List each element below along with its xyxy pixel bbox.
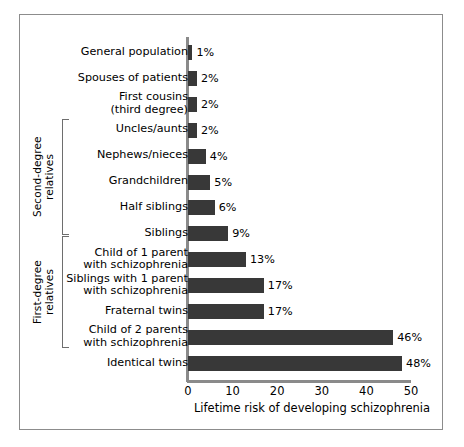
- bar-value-label: 9%: [232, 226, 250, 241]
- x-tick-label: 50: [396, 384, 426, 398]
- bar-value-label: 6%: [219, 200, 237, 215]
- bar-value-label: 1%: [196, 45, 214, 60]
- bar-value-label: 2%: [201, 123, 219, 138]
- bar-value-label: 13%: [250, 252, 275, 267]
- x-tick-label: 30: [307, 384, 337, 398]
- bar: [188, 200, 215, 215]
- bar: [188, 149, 206, 164]
- bar-row-label: Uncles/aunts: [48, 123, 188, 136]
- bar: [188, 45, 192, 60]
- bar-row-label: Siblings with 1 parent with schizophreni…: [48, 273, 188, 298]
- bar-value-label: 46%: [397, 330, 422, 345]
- x-tick-label: 40: [351, 384, 381, 398]
- bar: [188, 304, 264, 319]
- chart-figure: Second-degree relatives First-degree rel…: [19, 14, 443, 430]
- bar-row-label: First cousins (third degree): [48, 91, 188, 116]
- bar: [188, 97, 197, 112]
- bar: [188, 330, 393, 345]
- x-axis-line: [187, 380, 411, 383]
- bar-row-label: Child of 1 parent with schizophrenia: [48, 247, 188, 272]
- x-axis-title: Lifetime risk of developing schizophreni…: [187, 401, 437, 415]
- x-tick-label: 0: [173, 384, 203, 398]
- bar-row-label: Siblings: [48, 227, 188, 240]
- bar: [188, 226, 228, 241]
- bar-row-label: Spouses of patients: [48, 72, 188, 85]
- bar: [188, 356, 402, 371]
- bar: [188, 278, 264, 293]
- bar-row-label: Half siblings: [48, 201, 188, 214]
- bar-value-label: 2%: [201, 97, 219, 112]
- bar-row-label: Nephews/nieces: [48, 149, 188, 162]
- x-tick-label: 20: [262, 384, 292, 398]
- bar-value-label: 5%: [214, 175, 232, 190]
- bar: [188, 175, 210, 190]
- bar-row-label: Child of 2 parents with schizophrenia: [48, 324, 188, 349]
- plot-area: Second-degree relatives First-degree rel…: [20, 15, 444, 431]
- bar-row-label: Fraternal twins: [48, 305, 188, 318]
- bar-value-label: 2%: [201, 71, 219, 86]
- bar: [188, 71, 197, 86]
- bar: [188, 123, 197, 138]
- bar-value-label: 17%: [268, 304, 293, 319]
- bar-row-label: Grandchildren: [48, 175, 188, 188]
- bar-row-label: Identical twins: [48, 357, 188, 370]
- bar-row-label: General population: [48, 46, 188, 59]
- bar: [188, 252, 246, 267]
- bar-value-label: 4%: [210, 149, 228, 164]
- bar-value-label: 17%: [268, 278, 293, 293]
- x-tick-label: 10: [218, 384, 248, 398]
- bar-value-label: 48%: [406, 356, 431, 371]
